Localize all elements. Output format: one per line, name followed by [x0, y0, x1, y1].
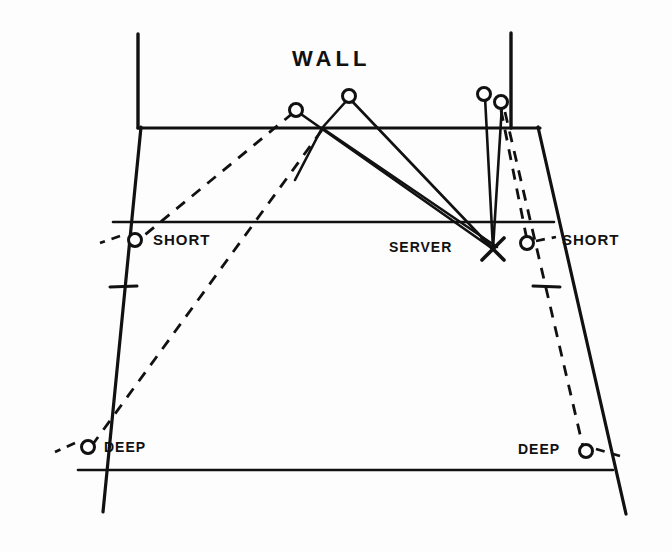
dashed-trajectory-group	[93, 110, 583, 447]
deep-label-left: DEEP	[104, 439, 146, 455]
wall-label: WALL	[292, 46, 370, 72]
outside-flick-group	[55, 236, 620, 456]
rebound-long-right	[322, 128, 497, 247]
rebound-to-short-left	[141, 113, 293, 238]
deep-label-right: DEEP	[518, 441, 560, 457]
serve-to-wall-mid	[349, 98, 493, 249]
target-marker-group	[82, 88, 593, 458]
short-target-right	[521, 237, 534, 250]
flick-deep-right	[596, 449, 620, 456]
flick-deep-left	[55, 443, 75, 452]
court-diagram-svg	[0, 0, 672, 552]
serve-to-wall-right-a	[485, 97, 493, 249]
court-diagram-canvas: WALL SHORT SHORT DEEP DEEP SERVER	[0, 0, 672, 552]
right-sideline-tick	[533, 286, 560, 287]
left-sideline-tick	[110, 286, 137, 287]
flick-short-left	[100, 236, 120, 243]
server-label: SERVER	[389, 239, 452, 255]
flick-short-right	[536, 237, 556, 241]
wall-target-right-a	[478, 88, 491, 101]
wall-target-mid	[343, 90, 356, 103]
wall-target-right-b	[495, 96, 508, 109]
short-target-left	[129, 234, 142, 247]
solid-trajectory-group	[295, 97, 502, 249]
short-label-right: SHORT	[562, 231, 620, 248]
deep-target-right	[580, 445, 593, 458]
wall-target-left	[290, 104, 303, 117]
deep-target-left	[82, 441, 95, 454]
short-label-left: SHORT	[153, 231, 211, 248]
